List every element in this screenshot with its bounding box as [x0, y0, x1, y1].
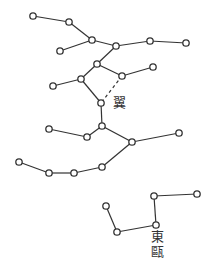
label-dongou-2: 甌: [151, 245, 164, 259]
star-icon: [46, 126, 52, 132]
constellation-line: [132, 133, 179, 142]
star-icon: [46, 170, 52, 176]
star-icon: [78, 76, 84, 82]
star-icon: [103, 203, 109, 209]
star-icon: [57, 48, 63, 54]
constellation-line: [116, 41, 150, 46]
constellation-line: [19, 162, 49, 173]
star-icon: [147, 38, 153, 44]
star-icon: [99, 123, 105, 129]
star-icon: [194, 191, 200, 197]
star-icon: [119, 73, 125, 79]
constellation-line: [106, 206, 117, 232]
constellation-line: [122, 67, 153, 76]
label-dongou-1: 東: [151, 230, 164, 244]
constellation-line: [53, 79, 81, 86]
star-map: [0, 0, 213, 273]
constellation-line: [81, 79, 101, 103]
star-icon: [89, 37, 95, 43]
constellation-line: [69, 22, 92, 40]
constellation-line: [102, 126, 132, 142]
constellation-line: [102, 142, 132, 167]
star-icon: [98, 100, 104, 106]
constellation-line: [150, 41, 186, 43]
star-icon: [150, 64, 156, 70]
star-icon: [183, 40, 189, 46]
star-icon: [151, 193, 157, 199]
constellation-line: [33, 16, 69, 22]
constellation-line: [74, 167, 102, 173]
constellation-line: [154, 194, 197, 196]
constellation-line: [97, 64, 122, 76]
star-icon: [129, 139, 135, 145]
constellation-line: [60, 40, 92, 51]
star-icon: [30, 13, 36, 19]
star-icon: [94, 61, 100, 67]
label-yi: 翼: [113, 96, 126, 110]
star-icon: [153, 222, 159, 228]
star-icon: [66, 19, 72, 25]
star-icon: [71, 170, 77, 176]
constellation-line: [49, 129, 87, 137]
constellation-line: [97, 46, 116, 64]
constellation-line: [154, 196, 156, 225]
star-icon: [113, 43, 119, 49]
star-icon: [176, 130, 182, 136]
star-icon: [99, 164, 105, 170]
star-icon: [50, 83, 56, 89]
star-icon: [16, 159, 22, 165]
star-icon: [84, 134, 90, 140]
star-icon: [114, 229, 120, 235]
